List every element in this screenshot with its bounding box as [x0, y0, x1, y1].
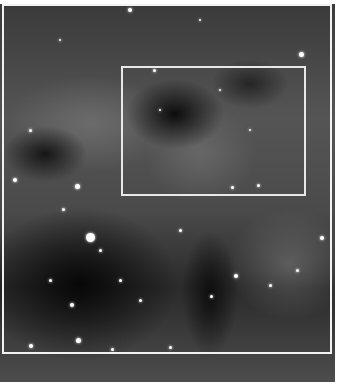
star [76, 338, 81, 343]
star [29, 344, 33, 348]
star [62, 208, 65, 211]
star [49, 279, 52, 282]
star [249, 129, 251, 131]
star [70, 303, 74, 307]
star [210, 295, 213, 298]
star [320, 236, 324, 240]
star [29, 129, 32, 132]
star [59, 39, 61, 41]
star [119, 279, 122, 282]
star [13, 178, 17, 182]
star [169, 346, 172, 349]
star [179, 229, 182, 232]
star [75, 184, 80, 189]
star [153, 69, 156, 72]
star [269, 284, 272, 287]
star [299, 52, 304, 57]
star [111, 348, 114, 351]
star [139, 299, 142, 302]
star [99, 249, 102, 252]
star [257, 184, 260, 187]
star [219, 89, 221, 91]
inner-box-overlay [121, 66, 306, 196]
star [234, 274, 238, 278]
star [86, 233, 95, 242]
star [159, 109, 161, 111]
star [199, 19, 201, 21]
star [128, 8, 132, 12]
star [296, 269, 299, 272]
star [231, 186, 234, 189]
